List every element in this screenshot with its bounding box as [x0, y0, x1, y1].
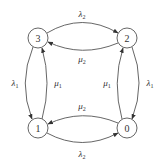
svg-text:1: 1 — [36, 123, 41, 134]
svg-text:2: 2 — [125, 33, 130, 44]
node-1: 1 — [28, 118, 48, 138]
edge-2-to-3 — [48, 42, 118, 50]
node-3: 3 — [28, 28, 48, 48]
edge-2-to-0 — [132, 47, 139, 119]
edge-label-0-to-2: μ1 — [102, 78, 111, 89]
edge-label-1-to-0: λ2 — [78, 149, 86, 160]
edge-label-1-to-3: μ1 — [53, 78, 62, 89]
svg-text:0: 0 — [125, 123, 130, 134]
edge-1-to-3 — [42, 48, 47, 119]
state-diagram: λ2 μ2 λ1 μ1 μ1 λ1 μ2 λ2 3 2 1 0 — [0, 0, 164, 163]
edge-0-to-1 — [48, 116, 118, 124]
edge-label-3-to-1: λ1 — [11, 78, 19, 89]
edge-3-to-2 — [47, 23, 118, 34]
svg-text:3: 3 — [36, 33, 41, 44]
edge-label-3-to-2: λ2 — [78, 9, 86, 20]
edge-0-to-2 — [117, 48, 123, 119]
edge-label-2-to-3: μ2 — [77, 54, 86, 65]
edge-3-to-1 — [25, 47, 33, 119]
edge-1-to-0 — [47, 133, 118, 143]
node-0: 0 — [117, 118, 137, 138]
edge-label-0-to-1: μ2 — [77, 101, 86, 112]
edge-label-2-to-0: λ1 — [146, 78, 154, 89]
node-2: 2 — [117, 28, 137, 48]
